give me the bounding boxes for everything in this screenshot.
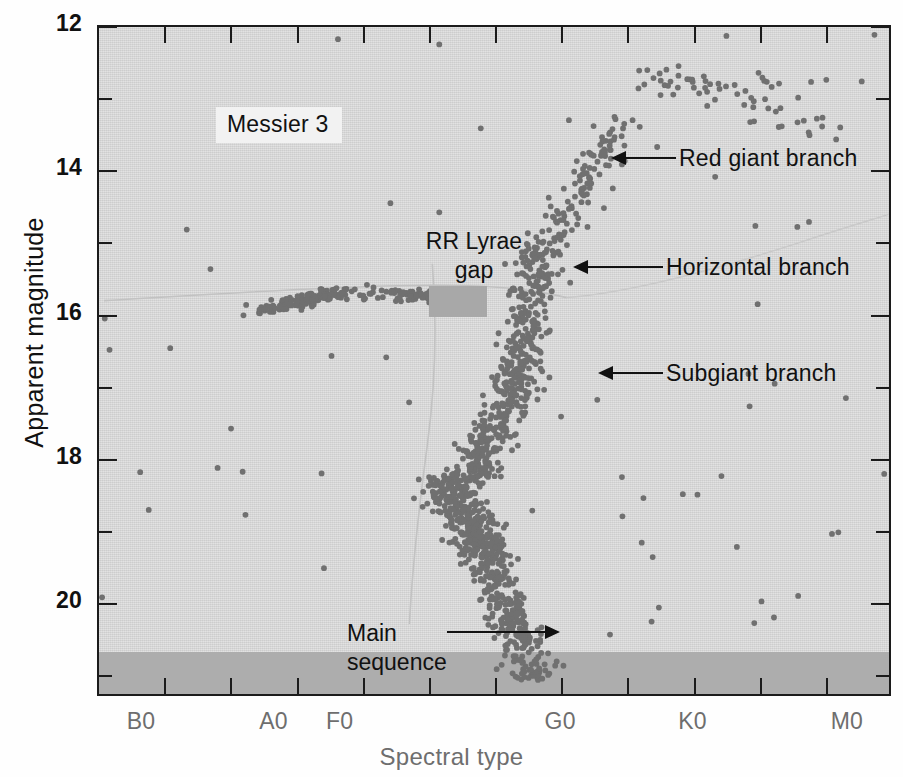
- red-giant-branch-arrow-head: [611, 151, 626, 165]
- main-sequence-line-1: Main: [347, 619, 487, 648]
- main-sequence-arrow-head: [545, 625, 560, 639]
- subgiant-branch-label: Subgiant branch: [666, 360, 837, 387]
- y-tick-15: [99, 242, 112, 244]
- x-tick-1: [164, 678, 166, 694]
- y-tick-13: [99, 98, 112, 100]
- y-tick-14: [99, 170, 117, 172]
- rr-lyrae-line-1: RR Lyrae: [399, 227, 549, 256]
- x-tick-label-M0: M0: [812, 708, 882, 735]
- horizontal-branch-arrow-line: [586, 266, 663, 268]
- y-tick-16: [871, 315, 889, 317]
- x-tick-7: [561, 27, 563, 43]
- main-sequence-line-2: sequence: [347, 648, 487, 677]
- horizontal-branch-label: Horizontal branch: [666, 254, 850, 281]
- x-tick-3: [297, 27, 299, 43]
- hr-diagram-figure: Messier 3 RR Lyrae gap Main sequence Red…: [0, 0, 903, 777]
- y-tick-13: [876, 98, 889, 100]
- main-sequence-arrow-line: [447, 631, 547, 633]
- y-tick-16: [99, 315, 117, 317]
- plot-area: Messier 3 RR Lyrae gap Main sequence Red…: [97, 25, 891, 696]
- y-tick-21: [876, 675, 889, 677]
- x-tick-6: [495, 678, 497, 694]
- y-tick-label-20: 20: [22, 587, 82, 614]
- y-tick-15: [876, 242, 889, 244]
- y-tick-17: [99, 387, 112, 389]
- x-tick-11: [826, 27, 828, 43]
- rr-lyrae-line-2: gap: [399, 256, 549, 285]
- rr-lyrae-gap-label: RR Lyrae gap: [399, 227, 549, 286]
- red-giant-branch-arrow-line: [624, 157, 676, 159]
- y-tick-20: [871, 603, 889, 605]
- y-tick-18: [99, 459, 117, 461]
- y-tick-18: [871, 459, 889, 461]
- x-tick-9: [694, 678, 696, 694]
- horizontal-branch-arrow-head: [573, 260, 588, 274]
- y-tick-21: [99, 675, 112, 677]
- y-tick-12: [871, 26, 889, 28]
- x-tick-label-B0: B0: [106, 708, 176, 735]
- x-tick-label-K0: K0: [658, 708, 728, 735]
- x-tick-3: [297, 678, 299, 694]
- x-tick-9: [694, 27, 696, 43]
- y-tick-20: [99, 603, 117, 605]
- x-tick-7: [561, 678, 563, 694]
- x-tick-8: [627, 27, 629, 43]
- y-tick-19: [99, 531, 112, 533]
- y-axis-title: Apparent magnitude: [20, 103, 49, 563]
- x-tick-1: [164, 27, 166, 43]
- subgiant-branch-arrow-head: [598, 366, 613, 380]
- x-tick-label-G0: G0: [525, 708, 595, 735]
- cluster-name-label: Messier 3: [216, 107, 342, 143]
- x-tick-8: [627, 678, 629, 694]
- main-sequence-label: Main sequence: [347, 619, 487, 678]
- x-tick-5: [429, 678, 431, 694]
- x-tick-6: [495, 27, 497, 43]
- x-tick-5: [429, 27, 431, 43]
- y-tick-12: [99, 26, 117, 28]
- x-tick-label-F0: F0: [305, 708, 375, 735]
- red-giant-branch-label: Red giant branch: [679, 145, 857, 172]
- x-tick-11: [826, 678, 828, 694]
- x-tick-10: [760, 27, 762, 43]
- x-tick-4: [363, 678, 365, 694]
- y-tick-14: [871, 170, 889, 172]
- x-tick-2: [230, 678, 232, 694]
- x-tick-4: [363, 27, 365, 43]
- x-tick-label-A0: A0: [238, 708, 308, 735]
- x-tick-2: [230, 27, 232, 43]
- subgiant-branch-arrow-line: [611, 372, 663, 374]
- y-tick-17: [876, 387, 889, 389]
- rr-lyrae-gap-marker: [429, 286, 487, 317]
- y-tick-label-12: 12: [22, 10, 82, 37]
- x-axis-title: Spectral type: [0, 743, 903, 771]
- x-tick-10: [760, 678, 762, 694]
- y-tick-19: [876, 531, 889, 533]
